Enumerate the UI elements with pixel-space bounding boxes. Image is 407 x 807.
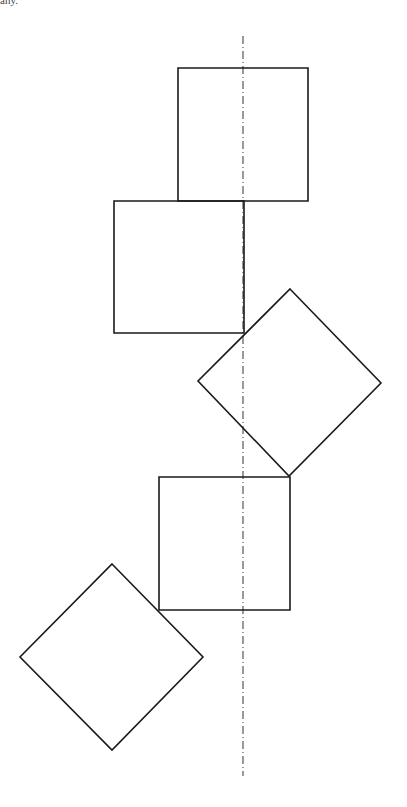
diagram-canvas — [0, 0, 407, 807]
shapes-group — [20, 68, 381, 750]
square-2 — [114, 201, 244, 333]
diamond-5 — [20, 564, 203, 750]
diamond-3 — [198, 289, 381, 476]
square-4 — [159, 477, 290, 610]
